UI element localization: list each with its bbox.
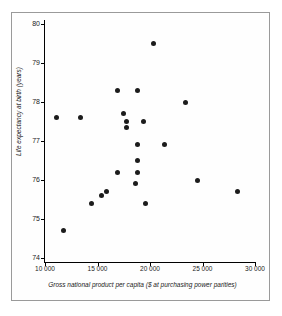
y-tick-label: 79 bbox=[22, 59, 40, 67]
data-point bbox=[151, 41, 156, 46]
data-point bbox=[54, 115, 59, 120]
y-tick-label: 74 bbox=[22, 254, 40, 262]
data-point bbox=[115, 170, 120, 175]
x-tick-mark bbox=[45, 263, 46, 266]
y-tick-mark bbox=[41, 180, 44, 181]
data-point bbox=[124, 125, 129, 130]
x-tick-label: 30 000 bbox=[235, 265, 275, 273]
y-tick-mark bbox=[41, 24, 44, 25]
data-point bbox=[99, 193, 104, 198]
x-tick-label: 20 000 bbox=[130, 265, 170, 273]
y-tick-mark bbox=[41, 219, 44, 220]
x-tick-mark bbox=[150, 263, 151, 266]
data-point bbox=[135, 170, 140, 175]
data-point bbox=[162, 142, 167, 147]
data-point bbox=[235, 189, 240, 194]
y-tick-label: 77 bbox=[22, 137, 40, 145]
y-tick-mark bbox=[41, 63, 44, 64]
y-tick-mark bbox=[41, 258, 44, 259]
x-tick-label: 25 000 bbox=[183, 265, 223, 273]
data-point bbox=[89, 201, 94, 206]
y-tick-mark bbox=[41, 141, 44, 142]
x-tick-mark bbox=[203, 263, 204, 266]
data-point bbox=[61, 228, 66, 233]
data-point bbox=[135, 158, 140, 163]
x-tick-mark bbox=[255, 263, 256, 266]
data-point bbox=[135, 88, 140, 93]
x-tick-label: 10 000 bbox=[25, 265, 65, 273]
data-point bbox=[141, 119, 146, 124]
scatter-chart-figure: Life expectancy at birth (years) Gross n… bbox=[0, 0, 282, 316]
data-point bbox=[135, 142, 140, 147]
data-point bbox=[124, 119, 129, 124]
data-point bbox=[133, 181, 138, 186]
y-tick-mark bbox=[41, 102, 44, 103]
y-tick-label: 78 bbox=[22, 98, 40, 106]
y-tick-label: 76 bbox=[22, 176, 40, 184]
data-point bbox=[78, 115, 83, 120]
data-point bbox=[195, 178, 200, 183]
y-tick-label: 75 bbox=[22, 215, 40, 223]
data-point bbox=[104, 189, 109, 194]
x-tick-mark bbox=[98, 263, 99, 266]
x-tick-label: 15 000 bbox=[78, 265, 118, 273]
y-tick-label: 80 bbox=[22, 20, 40, 28]
data-point bbox=[115, 88, 120, 93]
data-point bbox=[143, 201, 148, 206]
data-point bbox=[121, 111, 126, 116]
data-point bbox=[183, 100, 188, 105]
